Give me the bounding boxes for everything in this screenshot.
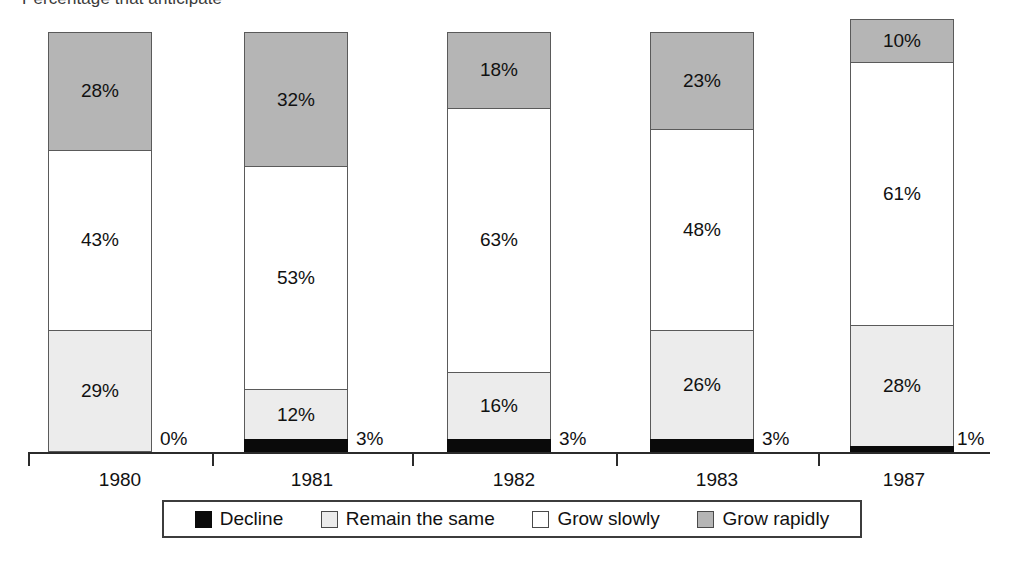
segment-value-label: 29% (81, 380, 119, 402)
bar-group-1982[interactable]: 3% 16% 63% 18% (447, 32, 551, 452)
axis-tick (412, 452, 414, 466)
stacked-bar[interactable]: 3% 12% 53% 32% (244, 32, 348, 452)
decline-value-label-1987: 1% (957, 428, 984, 450)
bar-group-1983[interactable]: 3% 26% 48% 23% (650, 32, 754, 452)
segment-grow-rapidly[interactable]: 18% (447, 32, 551, 108)
decline-value-label-1982: 3% (559, 428, 586, 450)
segment-value-label: 10% (883, 30, 921, 52)
legend-item-grow-slowly[interactable]: Grow slowly (532, 508, 659, 530)
segment-value-label: 61% (883, 183, 921, 205)
segment-value-label: 18% (480, 59, 518, 81)
white-swatch-icon (532, 511, 549, 528)
x-axis-label-1981: 1981 (212, 469, 412, 491)
x-axis-label-1983: 1983 (616, 469, 818, 491)
segment-grow-rapidly[interactable]: 10% (850, 19, 954, 62)
axis-tick (28, 452, 30, 466)
segment-grow-slowly[interactable]: 61% (850, 62, 954, 325)
stacked-bar[interactable]: 3% 26% 48% 23% (650, 32, 754, 452)
stacked-bar[interactable]: 1% 28% 61% 10% (850, 19, 954, 452)
segment-remain-the-same[interactable]: 28% (850, 325, 954, 446)
chart-legend: Decline Remain the same Grow slowly Grow… (162, 500, 862, 538)
segment-grow-rapidly[interactable]: 32% (244, 32, 348, 166)
segment-grow-rapidly[interactable]: 28% (48, 32, 152, 150)
legend-item-remain-the-same[interactable]: Remain the same (321, 508, 495, 530)
legend-item-grow-rapidly[interactable]: Grow rapidly (697, 508, 829, 530)
segment-value-label: 63% (480, 229, 518, 251)
segment-value-label: 16% (480, 395, 518, 417)
light-gray-swatch-icon (321, 511, 338, 528)
legend-item-decline[interactable]: Decline (195, 508, 283, 530)
segment-remain-the-same[interactable]: 12% (244, 389, 348, 439)
segment-value-label: 48% (683, 219, 721, 241)
segment-value-label: 12% (277, 404, 315, 426)
segment-decline[interactable]: 3% (244, 439, 348, 452)
segment-value-label: 26% (683, 374, 721, 396)
segment-value-label: 28% (81, 80, 119, 102)
segment-remain-the-same[interactable]: 26% (650, 330, 754, 439)
x-axis-line (28, 452, 990, 454)
segment-value-label: 43% (81, 229, 119, 251)
black-swatch-icon (195, 511, 212, 528)
legend-label: Grow slowly (557, 508, 659, 530)
legend-label: Decline (220, 508, 283, 530)
segment-grow-slowly[interactable]: 53% (244, 166, 348, 389)
gray-swatch-icon (697, 511, 714, 528)
segment-grow-slowly[interactable]: 48% (650, 129, 754, 331)
bar-group-1981[interactable]: 3% 12% 53% 32% (244, 32, 348, 452)
segment-value-label: 32% (277, 89, 315, 111)
bar-group-1987[interactable]: 1% 28% 61% 10% (850, 32, 954, 452)
segment-decline[interactable]: 3% (650, 439, 754, 452)
segment-grow-slowly[interactable]: 43% (48, 150, 152, 331)
segment-value-label: 28% (883, 375, 921, 397)
axis-tick (212, 452, 214, 466)
stacked-bar[interactable]: 29% 43% 28% (48, 32, 152, 452)
legend-label: Grow rapidly (722, 508, 829, 530)
segment-remain-the-same[interactable]: 16% (447, 372, 551, 439)
segment-decline[interactable]: 3% (447, 439, 551, 452)
legend-label: Remain the same (346, 508, 495, 530)
decline-value-label-1980: 0% (160, 428, 187, 450)
segment-grow-slowly[interactable]: 63% (447, 108, 551, 373)
plot-area: 29% 43% 28% 0% 3% 12% 53% 32% (0, 0, 1010, 470)
x-axis-label-1982: 1982 (412, 469, 616, 491)
x-axis-label-1980: 1980 (28, 469, 212, 491)
segment-value-label: 23% (683, 70, 721, 92)
decline-value-label-1981: 3% (356, 428, 383, 450)
axis-tick (616, 452, 618, 466)
segment-value-label: 53% (277, 267, 315, 289)
bar-group-1980[interactable]: 29% 43% 28% (48, 32, 152, 452)
stacked-bar[interactable]: 3% 16% 63% 18% (447, 32, 551, 452)
segment-remain-the-same[interactable]: 29% (48, 330, 152, 452)
decline-value-label-1983: 3% (762, 428, 789, 450)
x-axis-label-1987: 1987 (818, 469, 990, 491)
segment-grow-rapidly[interactable]: 23% (650, 32, 754, 129)
axis-tick (818, 452, 820, 466)
